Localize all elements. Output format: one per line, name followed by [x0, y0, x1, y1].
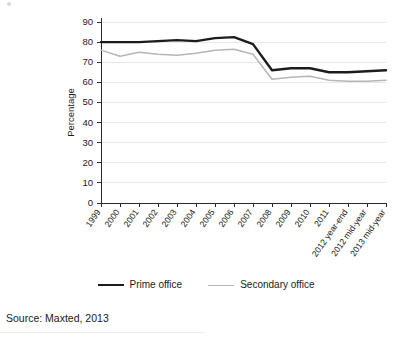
chart-svg: 0102030405060708090 19992000200120022003… [0, 0, 412, 268]
y-axis-title: Percentage [65, 88, 76, 137]
y-axis-ticks: 0102030405060708090 [82, 16, 101, 208]
y-axis-title-text: Percentage [65, 88, 76, 137]
x-tick-label-10: 2009 [273, 207, 292, 229]
caption-divider [0, 332, 205, 333]
figure-root: 0102030405060708090 19992000200120022003… [0, 0, 412, 338]
x-tick-label-0: 1999 [83, 207, 102, 229]
legend-line-icon-secondary-office [208, 285, 234, 286]
x-tick-label-5: 2004 [178, 207, 197, 229]
legend-item-prime-office: Prime office [98, 280, 183, 290]
x-tick-label-11: 2010 [292, 207, 311, 229]
legend-item-secondary-office: Secondary office [208, 280, 314, 290]
chart-legend: Prime office Secondary office [0, 276, 412, 294]
x-axis-ticks: 1999200020012002200320042005200620072008… [83, 203, 387, 259]
line-chart: 0102030405060708090 19992000200120022003… [0, 0, 412, 268]
x-tick-label-1: 2000 [102, 207, 121, 229]
x-tick-label-9: 2008 [254, 207, 273, 229]
x-tick-label-6: 2005 [197, 207, 216, 229]
x-tick-label-8: 2007 [235, 207, 254, 229]
x-tick-label-2: 2001 [121, 207, 140, 229]
x-tick-label-7: 2006 [216, 207, 235, 229]
legend-label-secondary-office: Secondary office [240, 280, 314, 290]
source-caption: Source: Maxted, 2013 [6, 312, 109, 324]
y-tick-label-20: 20 [82, 157, 93, 168]
series-line-secondary-office [101, 49, 386, 81]
x-tick-label-3: 2002 [140, 207, 159, 229]
y-tick-label-40: 40 [82, 117, 93, 128]
legend-label-prime-office: Prime office [130, 280, 183, 290]
y-tick-label-80: 80 [82, 36, 93, 47]
y-tick-label-0: 0 [88, 197, 93, 208]
y-tick-label-10: 10 [82, 177, 93, 188]
y-tick-label-70: 70 [82, 56, 93, 67]
data-series [101, 37, 386, 81]
x-tick-label-4: 2003 [159, 207, 178, 229]
y-tick-label-30: 30 [82, 137, 93, 148]
y-tick-label-60: 60 [82, 76, 93, 87]
grid-lines [101, 22, 386, 183]
axes [101, 18, 386, 203]
y-tick-label-50: 50 [82, 96, 93, 107]
legend-line-icon-prime-office [98, 284, 124, 286]
y-tick-label-90: 90 [82, 16, 93, 27]
